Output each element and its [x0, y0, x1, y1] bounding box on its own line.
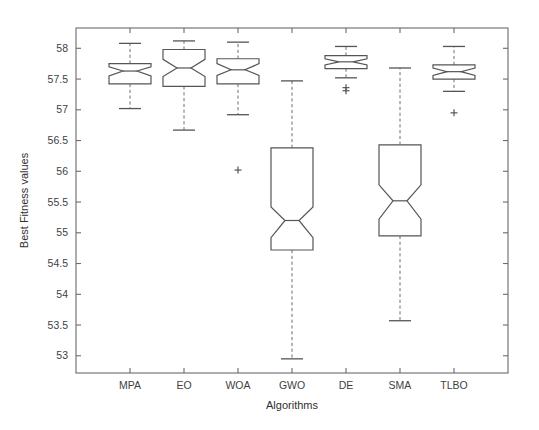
y-tick-label: 53.5 — [48, 319, 69, 331]
x-tick-label-tlbo: TLBO — [440, 379, 467, 391]
y-tick-label: 54.5 — [48, 257, 69, 269]
y-axis-title: Best Fitness values — [18, 152, 30, 248]
y-tick-label: 56.5 — [48, 134, 69, 146]
boxplot-figure: 5353.55454.55555.55656.55757.558MPAEOWOA… — [0, 0, 539, 430]
x-tick-label-mpa: MPA — [119, 379, 141, 391]
box-gwo — [271, 148, 313, 250]
box-sma — [379, 145, 421, 236]
y-tick-label: 57 — [56, 103, 68, 115]
x-tick-label-de: DE — [339, 379, 354, 391]
box-woa — [217, 59, 259, 84]
y-tick-label: 53 — [56, 349, 68, 361]
y-tick-label: 58 — [56, 42, 68, 54]
x-tick-label-woa: WOA — [225, 379, 250, 391]
x-tick-label-sma: SMA — [389, 379, 412, 391]
y-tick-label: 56 — [56, 165, 68, 177]
x-axis-title: Algorithms — [266, 399, 318, 411]
x-tick-label-gwo: GWO — [279, 379, 305, 391]
box-mpa — [109, 64, 151, 84]
boxplot-chart-canvas: 5353.55454.55555.55656.55757.558MPAEOWOA… — [0, 0, 539, 430]
y-tick-label: 55.5 — [48, 196, 69, 208]
y-tick-label: 57.5 — [48, 73, 69, 85]
y-tick-label: 54 — [56, 288, 68, 300]
x-tick-label-eo: EO — [176, 379, 191, 391]
y-tick-label: 55 — [56, 226, 68, 238]
